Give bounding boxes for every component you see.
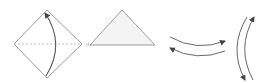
triangle-figure	[90, 10, 155, 45]
diagram-svg: d	[0, 0, 268, 83]
vertical-arrow-right	[245, 17, 254, 80]
diagram-canvas: d	[0, 0, 268, 83]
diamond-figure: d	[14, 10, 89, 78]
vertical-arrow-left	[237, 17, 247, 80]
horizontal-arrow-upper	[170, 37, 225, 46]
horizontal-arrows-figure	[170, 37, 225, 56]
triangle-shape	[90, 10, 155, 45]
horizontal-arrow-lower	[170, 48, 225, 56]
vertical-arrows-figure	[237, 17, 254, 80]
diamond-label: d	[86, 41, 89, 47]
